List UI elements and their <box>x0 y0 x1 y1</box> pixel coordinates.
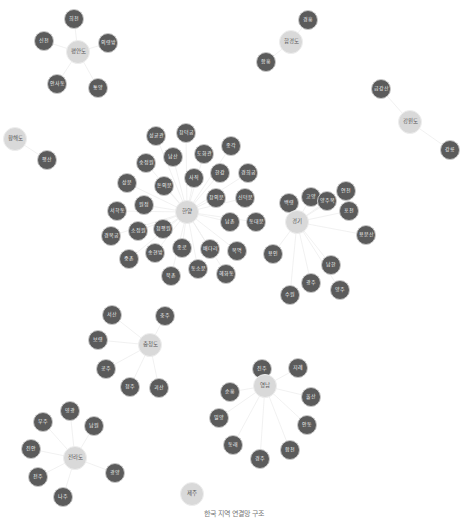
leaf-node[interactable]: 용인 <box>263 244 283 264</box>
leaf-node[interactable]: 경흥 <box>298 10 318 30</box>
leaf-node[interactable]: 함흥 <box>256 52 276 72</box>
leaf-node[interactable]: 포천 <box>339 201 359 221</box>
leaf-node[interactable]: 혜화동 <box>216 264 236 284</box>
hub-node-hamgyeong[interactable]: 함경도 <box>279 30 303 54</box>
leaf-node[interactable]: 상문 <box>117 173 137 193</box>
leaf-node[interactable]: 강릉 <box>440 140 460 160</box>
leaf-node[interactable]: 울산 <box>301 387 321 407</box>
leaf-node[interactable]: 진안 <box>21 439 41 459</box>
leaf-node[interactable]: 서학동 <box>107 201 127 221</box>
leaf-node[interactable]: 남원 <box>84 416 104 436</box>
leaf-node[interactable]: 돈의문 <box>154 176 174 196</box>
leaf-node[interactable]: 창의문 <box>206 188 226 208</box>
leaf-node[interactable]: 보령 <box>88 330 108 350</box>
leaf-node[interactable]: 중촌 <box>119 249 139 269</box>
leaf-node[interactable]: 동래 <box>223 435 243 455</box>
hub-node-jeju[interactable]: 제주 <box>180 482 204 506</box>
leaf-node[interactable]: 남촌 <box>220 212 240 232</box>
leaf-node[interactable]: 의령방 <box>98 33 118 53</box>
hub-node-jeolla[interactable]: 전라도 <box>63 446 87 470</box>
leaf-node[interactable]: 무주 <box>33 412 53 432</box>
leaf-node[interactable]: 종각 <box>221 136 241 156</box>
leaf-node[interactable]: 광주 <box>301 273 321 293</box>
leaf-node[interactable]: 전주 <box>28 467 48 487</box>
leaf-node[interactable]: 청평원 <box>153 219 173 239</box>
leaf-node[interactable]: 괴산 <box>149 378 169 398</box>
leaf-node[interactable]: 광양 <box>105 463 125 483</box>
leaf-node[interactable]: 공주 <box>96 359 116 379</box>
leaf-node[interactable]: 창덕궁 <box>176 123 196 143</box>
leaf-node[interactable]: 남산 <box>163 147 183 167</box>
leaf-node[interactable]: 양주목 <box>317 191 337 211</box>
leaf-node[interactable]: 밀양 <box>209 408 229 428</box>
leaf-node[interactable]: 숭정원 <box>136 153 156 173</box>
hub-node-hwanghae[interactable]: 황해도 <box>3 127 27 151</box>
leaf-node[interactable]: 희천 <box>64 9 84 29</box>
leaf-node[interactable]: 연천 <box>336 181 356 201</box>
leaf-node[interactable]: 나주 <box>53 487 73 507</box>
leaf-node[interactable]: 북촌 <box>161 266 181 286</box>
hub-node-pyeongan[interactable]: 평안도 <box>66 40 90 64</box>
leaf-node[interactable]: 성균관 <box>146 126 166 146</box>
leaf-node[interactable]: 통양 <box>88 78 108 98</box>
leaf-node[interactable]: 경희궁 <box>238 163 258 183</box>
leaf-node[interactable]: 평산 <box>37 150 57 170</box>
leaf-node[interactable]: 청주 <box>120 377 140 397</box>
leaf-node[interactable]: 순흥 <box>220 382 240 402</box>
leaf-node[interactable]: 경복궁 <box>101 226 121 246</box>
leaf-node[interactable]: 신천 <box>34 31 54 51</box>
leaf-node[interactable]: 지례 <box>288 358 308 378</box>
leaf-node[interactable]: 사직 <box>184 168 204 188</box>
leaf-node[interactable]: 동소문 <box>188 259 208 279</box>
leaf-node[interactable]: 서산 <box>102 305 122 325</box>
network-diagram: 희천신천의령방안사동통양경흥함흥평산금강산강릉성균관창덕궁종각숭정원남산도화관한… <box>0 0 468 523</box>
leaf-node[interactable]: 충주 <box>155 306 175 326</box>
leaf-node[interactable]: 도화관 <box>194 144 214 164</box>
leaf-node[interactable]: 동대문 <box>246 212 266 232</box>
leaf-node[interactable]: 안사동 <box>47 74 67 94</box>
hub-node-gangwon[interactable]: 강원도 <box>398 110 422 134</box>
leaf-node[interactable]: 영광 <box>60 401 80 421</box>
leaf-node[interactable]: 소정원 <box>128 221 148 241</box>
leaf-node[interactable]: 수원 <box>280 285 300 305</box>
leaf-node[interactable]: 금강산 <box>371 79 391 99</box>
leaf-node[interactable]: 경주 <box>250 449 270 469</box>
leaf-node[interactable]: 송현방 <box>145 243 165 263</box>
leaf-node[interactable]: 목멱 <box>227 241 247 261</box>
leaf-node[interactable]: 신덕문 <box>235 188 255 208</box>
leaf-node[interactable]: 종로 <box>172 238 192 258</box>
hub-node-gyeonggi[interactable]: 경기 <box>285 210 309 234</box>
leaf-node[interactable]: 합천 <box>280 440 300 460</box>
leaf-node[interactable]: 배다리 <box>200 239 220 259</box>
hub-node-hanyang[interactable]: 한양 <box>175 200 199 224</box>
hub-node-yeongnam[interactable]: 영남 <box>253 374 277 398</box>
leaf-node[interactable]: 안동 <box>297 415 317 435</box>
hub-node-chungcheong[interactable]: 충청도 <box>138 333 162 357</box>
leaf-node[interactable]: 양주 <box>330 280 350 300</box>
leaf-node[interactable]: 용문산 <box>356 225 376 245</box>
leaf-node[interactable]: 한강 <box>210 163 230 183</box>
leaf-node[interactable]: 원정 <box>134 195 154 215</box>
diagram-caption: 한국 지역 연결망 구조 <box>0 508 468 518</box>
leaf-node[interactable]: 남한 <box>321 255 341 275</box>
